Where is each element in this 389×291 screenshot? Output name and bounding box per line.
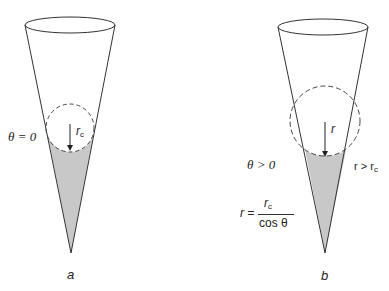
cone-b-angle-label: θ > 0: [247, 157, 275, 173]
cone-a-right-wall: [71, 25, 115, 253]
formula-fraction-bar: [258, 214, 294, 215]
formula-denominator: cos θ: [259, 216, 288, 230]
diagram-graphics: [0, 0, 389, 291]
cone-b-comparison-label: r > rc: [354, 160, 378, 174]
cone-b-radius-label: r: [331, 122, 335, 136]
panel-b-caption: b: [321, 268, 328, 283]
cone-b-liquid: [305, 150, 346, 253]
formula-lhs: r =: [240, 206, 254, 220]
cone-a: [25, 17, 115, 253]
cone-a-rim: [25, 17, 115, 33]
cone-a-radius-label: rc: [76, 124, 84, 139]
cone-b-rim: [278, 19, 368, 35]
panel-a-caption: a: [67, 267, 74, 282]
figure-canvas: rc θ = 0 a r θ > 0 r > rc r = rc cos θ b: [0, 0, 389, 291]
formula-numerator: rc: [264, 196, 272, 211]
cone-b-right-wall: [325, 27, 368, 253]
cone-a-angle-label: θ = 0: [8, 129, 36, 145]
cone-a-arrowhead-icon: [67, 145, 73, 151]
cone-b-formula: r = rc cos θ: [240, 202, 300, 232]
